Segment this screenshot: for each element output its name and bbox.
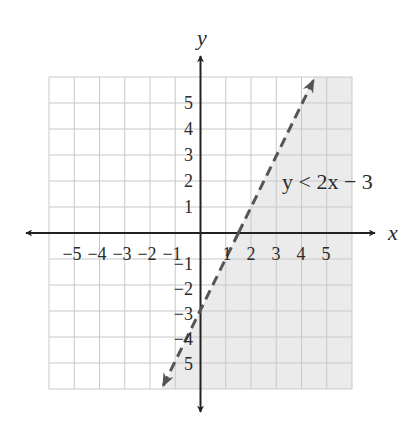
x-tick: −3 xyxy=(112,244,131,264)
x-tick: 4 xyxy=(297,244,306,264)
x-tick: −4 xyxy=(87,244,106,264)
y-tick: 3 xyxy=(184,145,193,165)
y-tick: 5 xyxy=(184,93,193,113)
inequality-graph: y x −5 −4 −3 −2 −1 1 2 3 4 5 5 4 3 2 1 −… xyxy=(0,0,418,433)
x-tick: −5 xyxy=(62,244,81,264)
y-axis-label: y xyxy=(195,25,207,50)
x-tick: 5 xyxy=(322,244,331,264)
x-tick: 1 xyxy=(223,244,232,264)
x-tick: −2 xyxy=(137,244,156,264)
y-tick: −3 xyxy=(174,304,193,324)
x-tick: 3 xyxy=(272,244,281,264)
y-tick: 4 xyxy=(184,119,193,139)
x-tick: 2 xyxy=(247,244,256,264)
y-tick: 2 xyxy=(184,171,193,191)
x-axis-label: x xyxy=(387,220,398,245)
y-tick: −1 xyxy=(174,254,193,274)
y-tick: 5 xyxy=(184,354,193,374)
y-tick: 1 xyxy=(184,197,193,217)
inequality-label: y < 2x − 3 xyxy=(282,169,373,194)
y-tick: −2 xyxy=(174,279,193,299)
y-tick: −4 xyxy=(174,329,193,349)
